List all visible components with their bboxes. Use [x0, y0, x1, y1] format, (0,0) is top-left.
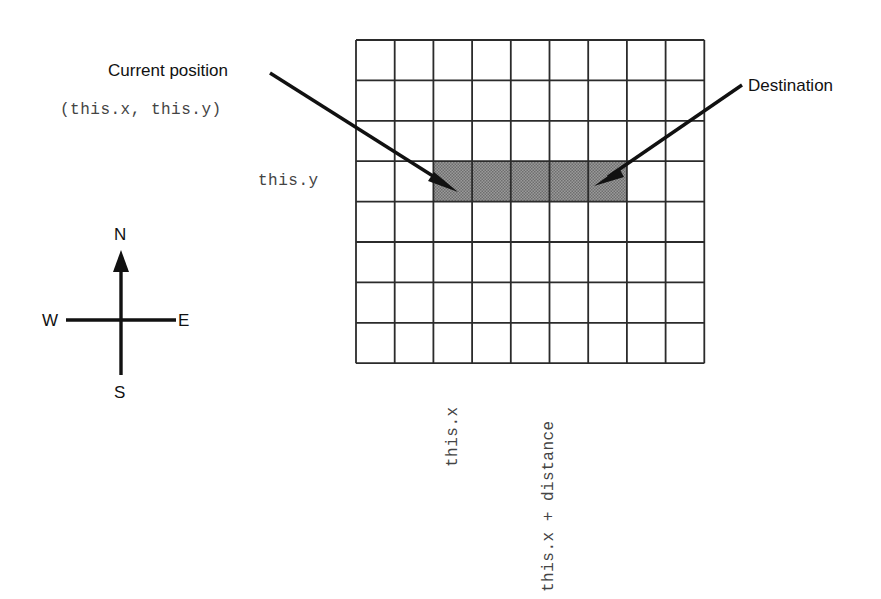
- destination-label: Destination: [748, 77, 833, 94]
- highlight-band: [433, 161, 627, 201]
- compass-east-label: E: [178, 312, 189, 329]
- this-y-label: this.y: [258, 173, 319, 189]
- destination-arrow: [594, 85, 742, 186]
- this-x-plus-distance-axis-label: this.x + distance: [541, 420, 557, 592]
- diagram-canvas: Current position (this.x, this.y) Destin…: [0, 0, 881, 599]
- compass-north-label: N: [114, 226, 126, 243]
- compass-north-arrowhead: [113, 250, 129, 272]
- compass-west-label: W: [42, 312, 58, 329]
- current-position-coords-label: (this.x, this.y): [60, 102, 222, 118]
- this-x-axis-label: this.x: [445, 406, 461, 467]
- compass-south-label: S: [114, 384, 125, 401]
- current-position-label: Current position: [108, 62, 228, 79]
- grid-horizontal-lines: [356, 40, 704, 363]
- compass-rose: [66, 250, 176, 375]
